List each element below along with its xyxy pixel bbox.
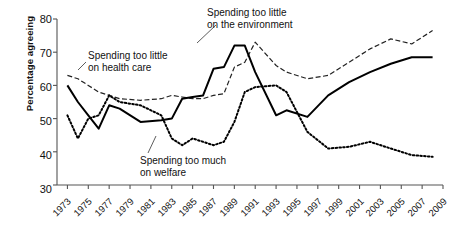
chart-axes bbox=[53, 19, 443, 189]
leader-line-environment bbox=[197, 25, 216, 43]
chart-plot-area bbox=[0, 0, 454, 232]
leader-line-welfare bbox=[148, 136, 156, 153]
leader-line-health-care bbox=[78, 62, 86, 70]
series-line-1 bbox=[67, 46, 432, 129]
annotation-leader-lines bbox=[78, 25, 216, 153]
chart-container: Percentage agreeing 80 70 60 50 40 30 Sp… bbox=[0, 0, 454, 232]
chart-series bbox=[67, 31, 432, 157]
series-line-2 bbox=[67, 85, 432, 156]
